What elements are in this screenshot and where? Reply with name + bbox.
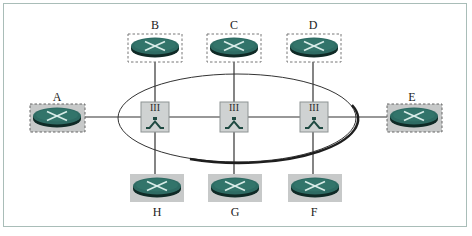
router-label-F: F: [304, 205, 324, 220]
router-G-icon: [211, 178, 259, 198]
switch-label-S1: III: [143, 102, 167, 113]
router-D-icon: [290, 38, 338, 58]
router-label-A: A: [47, 90, 67, 105]
router-label-B: B: [145, 18, 165, 33]
router-E-icon: [390, 108, 438, 128]
router-B-icon: [131, 38, 179, 58]
switch-label-S3: III: [302, 102, 326, 113]
network-diagram: [0, 0, 472, 236]
router-C-icon: [210, 38, 258, 58]
router-F-icon: [291, 178, 339, 198]
router-H-icon: [133, 178, 181, 198]
router-label-C: C: [224, 18, 244, 33]
router-label-D: D: [303, 18, 323, 33]
router-label-E: E: [402, 90, 422, 105]
router-A-icon: [33, 108, 81, 128]
switch-label-S2: III: [222, 102, 246, 113]
router-label-G: G: [225, 205, 245, 220]
router-label-H: H: [147, 205, 167, 220]
